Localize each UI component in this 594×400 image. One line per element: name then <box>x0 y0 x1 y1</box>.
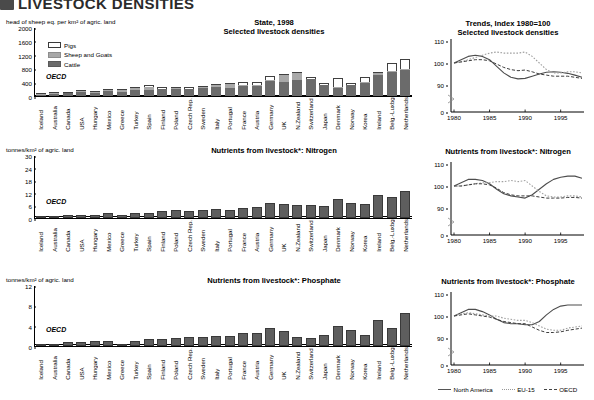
bar <box>49 344 59 346</box>
bar-column <box>102 286 116 346</box>
bar-column <box>129 28 143 96</box>
bar-column <box>385 28 399 96</box>
x-label-cell: Finland <box>156 97 170 130</box>
x-tick-label: France <box>240 97 247 130</box>
bar-segment <box>346 203 356 218</box>
x-tick-label: Norway <box>348 97 355 130</box>
bar-segment <box>360 204 370 218</box>
bar-column <box>385 286 399 346</box>
trend-y-tick-label: 0 <box>441 109 446 116</box>
bar <box>90 215 100 218</box>
bar-segment-cattle <box>265 81 275 96</box>
bar <box>211 336 221 346</box>
bar-column <box>237 28 251 96</box>
x-tick-label: Australia <box>51 97 58 130</box>
bar <box>117 344 127 346</box>
bar-segment <box>76 342 86 346</box>
bar <box>117 89 127 96</box>
x-tick-label: Spain <box>145 219 152 252</box>
bar-column <box>345 286 359 346</box>
bar-column <box>331 28 345 96</box>
x-tick-label: Ireland <box>375 219 382 252</box>
bar <box>36 344 46 346</box>
trend-y-tick-label: 110 <box>434 38 446 45</box>
bar-column <box>210 28 224 96</box>
x-label-cell: Norway <box>345 97 359 130</box>
x-tick-label: Austria <box>253 97 260 130</box>
bar-segment <box>400 191 410 218</box>
phosphate-bar-series <box>34 286 412 346</box>
bar-column <box>75 156 89 218</box>
bar-segment <box>238 208 248 218</box>
trend-legend-item-eu-15: EU-15 <box>502 386 535 393</box>
bar <box>198 86 208 96</box>
bar-column <box>345 156 359 218</box>
bar-segment <box>265 203 275 218</box>
x-tick-label: Poland <box>172 219 179 252</box>
bar-segment <box>184 211 194 218</box>
x-tick-label: Switzerland <box>307 219 314 252</box>
x-tick-label: Belg.-Luxbg <box>388 219 395 252</box>
bar-column <box>345 28 359 96</box>
x-tick-label: Mexico <box>105 219 112 252</box>
nitrogen-trend-chart: 0901001101980198519901995 <box>446 162 584 235</box>
bar-segment <box>103 213 113 218</box>
trend-y-tick-label: 110 <box>434 161 446 168</box>
trend-legend-label-oecd: OECD <box>559 386 577 393</box>
x-label-cell: Germany <box>264 347 278 380</box>
bar <box>360 77 370 96</box>
trend-series-oecd <box>454 60 582 79</box>
bar <box>157 211 167 218</box>
bar <box>238 208 248 218</box>
bar <box>319 335 329 346</box>
bar-column <box>318 286 332 346</box>
x-tick-label: Switzerland <box>307 347 314 380</box>
x-tick-label: Turkey <box>132 97 139 130</box>
bar-column <box>223 156 237 218</box>
x-tick-label: Greece <box>118 347 125 380</box>
bar <box>130 213 140 218</box>
x-label-cell: Spain <box>142 97 156 130</box>
bar-column <box>196 28 210 96</box>
bar <box>63 342 73 346</box>
livestock-trend-title-1: Trends, Index 1980=100 <box>424 19 592 28</box>
x-tick-label: Korea <box>361 97 368 130</box>
x-label-cell: USA <box>75 219 89 252</box>
bar <box>198 337 208 346</box>
bar <box>225 336 235 346</box>
x-tick-label: USA <box>78 347 85 380</box>
trend-x-tick-label: 1995 <box>554 112 568 121</box>
x-label-cell: Hungary <box>88 97 102 130</box>
x-label-cell: Turkey <box>129 347 143 380</box>
trend-x-tick-label: 1985 <box>483 235 497 244</box>
x-tick-label: Ireland <box>375 347 382 380</box>
bar-segment-cattle <box>76 92 86 96</box>
bar-segment-cattle <box>49 94 59 96</box>
bar-segment-cattle <box>198 88 208 96</box>
bar-segment-cattle <box>184 89 194 96</box>
bar-segment-pigs <box>333 78 343 87</box>
x-label-cell: Spain <box>142 219 156 252</box>
bar-column <box>169 28 183 96</box>
x-label-cell: Denmark <box>331 347 345 380</box>
bar-column <box>304 286 318 346</box>
trend-line-svg <box>446 39 584 113</box>
bar-segment <box>387 197 397 218</box>
bar-column <box>358 286 372 346</box>
bar-segment <box>130 213 140 218</box>
phosphate-trend-chart: 0901001101980198519901995 <box>446 292 584 365</box>
bar-segment-cattle <box>400 70 410 96</box>
bar-segment <box>103 341 113 346</box>
bar-column <box>237 286 251 346</box>
x-label-cell: Czech Rep. <box>183 347 197 380</box>
nitrogen-trend-panel: Nutrients from livestock*: Nitrogen 0901… <box>424 146 592 264</box>
bar-segment-pigs <box>400 59 410 69</box>
trend-x-tick-label: 1990 <box>518 365 532 374</box>
bar-column <box>291 28 305 96</box>
x-tick-label: Japan <box>321 97 328 130</box>
x-tick-label: Germany <box>267 347 274 380</box>
trend-x-tick-label: 1985 <box>483 365 497 374</box>
bar-segment-cattle <box>373 75 383 96</box>
bar-column <box>399 156 413 218</box>
trend-y-tick-label: 90 <box>437 335 446 342</box>
